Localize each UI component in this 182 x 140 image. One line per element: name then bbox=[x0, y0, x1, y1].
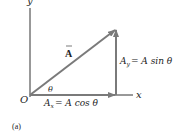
x-component-label: Ax= A cos θ bbox=[43, 98, 99, 109]
vector-a-label: A bbox=[65, 48, 73, 59]
svg-text:Ax= A cos θ: Ax= A cos θ bbox=[43, 98, 99, 109]
svg-text:Ay= A sin θ: Ay= A sin θ bbox=[119, 56, 173, 68]
x-axis-label: x bbox=[136, 89, 142, 100]
vector-components-diagram: y x O A θ Ax= A cos θ Ay= A sin θ (a) bbox=[0, 0, 182, 140]
y-component-label: Ay= A sin θ bbox=[119, 56, 173, 68]
origin-label: O bbox=[20, 94, 28, 105]
panel-label: (a) bbox=[12, 122, 21, 131]
theta-label: θ bbox=[48, 85, 53, 94]
y-axis-label: y bbox=[26, 0, 33, 6]
vector-a-arrow bbox=[30, 30, 115, 95]
